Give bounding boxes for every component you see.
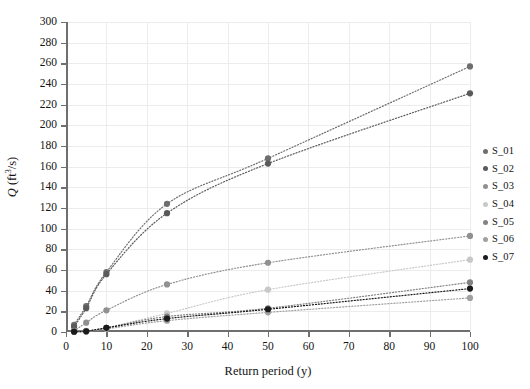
data-point-s_07-100: [467, 286, 473, 292]
legend-item-s_02[interactable]: S_02: [483, 164, 514, 175]
x-tick-label: 50: [262, 341, 274, 353]
data-point-s_02-50: [265, 160, 271, 166]
legend-marker-icon: [483, 237, 488, 242]
x-tick-label: 80: [383, 341, 395, 353]
legend-item-label: S_05: [492, 217, 514, 228]
x-tick: [228, 332, 229, 337]
chart-legend: S_01S_02S_03S_04S_05S_06S_07: [483, 146, 514, 263]
x-tick: [268, 332, 269, 337]
data-point-s_02-10: [103, 271, 109, 277]
trendline-s_06: [74, 298, 470, 332]
plot-area: 0204060801001201401601802002202402602803…: [66, 22, 470, 332]
legend-item-s_06[interactable]: S_06: [483, 234, 514, 245]
trendline-s_01: [74, 66, 470, 324]
data-point-s_07-50: [265, 306, 271, 312]
y-tick-label: 280: [40, 37, 57, 49]
legend-item-label: S_07: [492, 252, 514, 263]
legend-marker-icon: [483, 255, 488, 260]
legend-marker-icon: [483, 166, 488, 171]
legend-item-s_04[interactable]: S_04: [483, 199, 514, 210]
legend-item-label: S_03: [492, 181, 514, 192]
y-tick-label: 20: [46, 306, 58, 318]
x-tick: [106, 332, 107, 337]
x-tick: [349, 332, 350, 337]
x-axis-label: Return period (y): [66, 364, 470, 379]
legend-item-label: S_01: [492, 146, 514, 157]
y-tick-label: 40: [46, 285, 58, 297]
x-tick: [308, 332, 309, 337]
data-point-s_02-100: [467, 90, 473, 96]
data-point-s_03-25: [164, 281, 170, 287]
y-tick-label: 80: [46, 244, 58, 256]
legend-marker-icon: [483, 184, 488, 189]
legend-item-label: S_06: [492, 234, 514, 245]
series-data-layer: [66, 22, 470, 332]
y-tick-label: 0: [51, 326, 57, 338]
y-tick-label: 120: [40, 202, 57, 214]
data-point-s_07-5: [83, 328, 89, 334]
x-tick-label: 60: [303, 341, 315, 353]
trendline-s_02: [74, 93, 470, 327]
y-tick-label: 300: [40, 16, 57, 28]
data-point-s_03-5: [83, 320, 89, 326]
legend-item-s_03[interactable]: S_03: [483, 181, 514, 192]
chart-figure: 0204060801001201401601802002202402602803…: [0, 0, 530, 389]
x-tick-label: 70: [343, 341, 355, 353]
x-tick: [470, 332, 471, 337]
x-tick-label: 40: [222, 341, 234, 353]
data-point-s_02-25: [164, 210, 170, 216]
data-point-s_01-25: [164, 201, 170, 207]
y-tick-label: 60: [46, 264, 58, 276]
y-tick-label: 260: [40, 58, 57, 70]
data-point-s_07-10: [103, 325, 109, 331]
legend-item-label: S_02: [492, 164, 514, 175]
x-tick: [147, 332, 148, 337]
data-point-s_04-100: [467, 257, 473, 263]
legend-marker-icon: [483, 149, 488, 154]
trendline-s_04: [74, 260, 470, 332]
data-point-s_04-50: [265, 287, 271, 293]
data-point-s_01-100: [467, 63, 473, 69]
x-tick-label: 90: [424, 341, 436, 353]
x-tick: [389, 332, 390, 337]
x-tick-label: 20: [141, 341, 153, 353]
trendline-s_05: [74, 282, 470, 331]
data-point-s_05-100: [467, 279, 473, 285]
y-tick-label: 180: [40, 140, 57, 152]
x-tick-label: 30: [181, 341, 193, 353]
x-tick-label: 10: [101, 341, 113, 353]
y-tick-label: 100: [40, 223, 57, 235]
y-tick-label: 220: [40, 99, 57, 111]
y-tick-label: 200: [40, 120, 57, 132]
x-tick: [66, 332, 67, 337]
legend-item-label: S_04: [492, 199, 514, 210]
x-tick-label: 100: [461, 341, 478, 353]
data-point-s_02-5: [83, 305, 89, 311]
legend-marker-icon: [483, 220, 488, 225]
data-point-s_07-25: [164, 315, 170, 321]
x-tick: [430, 332, 431, 337]
x-tick: [187, 332, 188, 337]
x-tick-label: 0: [63, 341, 69, 353]
trendline-s_03: [74, 236, 470, 331]
data-point-s_03-10: [103, 307, 109, 313]
data-point-s_07-2: [71, 329, 77, 335]
data-point-s_03-100: [467, 233, 473, 239]
legend-item-s_01[interactable]: S_01: [483, 146, 514, 157]
legend-marker-icon: [483, 202, 488, 207]
y-tick-label: 160: [40, 161, 57, 173]
y-axis-label: Q (ft3/s): [4, 157, 20, 197]
data-point-s_03-50: [265, 260, 271, 266]
legend-item-s_05[interactable]: S_05: [483, 217, 514, 228]
y-tick-label: 240: [40, 78, 57, 90]
legend-item-s_07[interactable]: S_07: [483, 252, 514, 263]
data-point-s_06-100: [467, 295, 473, 301]
y-tick-label: 140: [40, 182, 57, 194]
